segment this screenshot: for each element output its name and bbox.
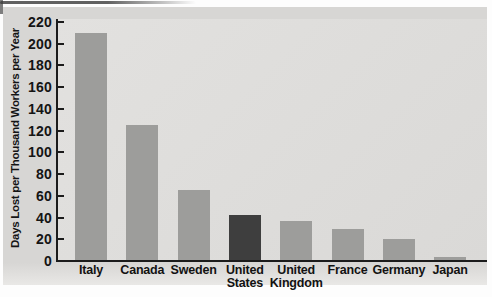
y-tick-label-180: 180 <box>6 57 52 73</box>
y-tick-label-220: 220 <box>6 14 52 30</box>
y-tick-220 <box>57 21 64 23</box>
y-axis-line <box>56 19 58 262</box>
y-tick-40 <box>57 217 64 219</box>
y-tick-label-160: 160 <box>6 79 52 95</box>
bar-france <box>332 229 364 261</box>
y-tick-200 <box>57 43 64 45</box>
scan-artifact-top-line <box>0 1 196 4</box>
y-tick-140 <box>57 108 64 110</box>
bar-united-kingdom <box>280 221 312 261</box>
bar-germany <box>383 239 415 261</box>
plot-area <box>58 19 487 261</box>
y-tick-160 <box>57 86 64 88</box>
bar-italy <box>75 33 107 261</box>
y-tick-180 <box>57 64 64 66</box>
bar-canada <box>126 125 158 261</box>
y-tick-label-80: 80 <box>6 166 52 182</box>
y-tick-60 <box>57 195 64 197</box>
bar-sweden <box>178 190 210 261</box>
y-tick-120 <box>57 130 64 132</box>
scan-artifact-left-mark <box>0 0 3 14</box>
y-tick-label-0: 0 <box>6 253 52 269</box>
y-tick-80 <box>57 173 64 175</box>
x-label-japan: Japan <box>418 264 482 277</box>
y-tick-label-60: 60 <box>6 188 52 204</box>
scanned-figure-page: Days Lost per Thousand Workers per Year … <box>0 0 492 297</box>
y-tick-label-120: 120 <box>6 123 52 139</box>
y-tick-label-20: 20 <box>6 231 52 247</box>
y-tick-label-200: 200 <box>6 36 52 52</box>
bar-united-states <box>229 215 261 261</box>
y-tick-label-100: 100 <box>6 144 52 160</box>
y-tick-label-40: 40 <box>6 210 52 226</box>
y-tick-20 <box>57 238 64 240</box>
y-tick-label-140: 140 <box>6 101 52 117</box>
y-tick-100 <box>57 151 64 153</box>
